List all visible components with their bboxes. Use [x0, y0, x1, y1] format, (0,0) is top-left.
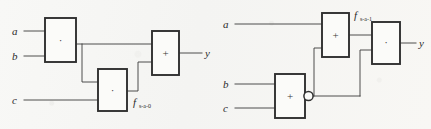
and-gate-ab-op: ·: [59, 34, 63, 46]
wire-nor-to-or: [314, 48, 322, 96]
or-gate-a: +: [322, 13, 349, 57]
fault-symbol: f: [133, 96, 138, 108]
and-gate-ab: ·: [45, 18, 76, 62]
wire-and-c-to-or: [127, 62, 152, 91]
output-label-y: y: [418, 37, 424, 49]
nor-gate-bc-op: +: [287, 90, 293, 102]
input-label-b: b: [12, 50, 18, 62]
and-gate-out-op: ·: [384, 36, 388, 48]
inversion-bubble-icon: [304, 91, 313, 100]
input-label-a: a: [223, 18, 229, 30]
or-gate-out-op: +: [162, 47, 168, 59]
fault-subscript: s-a-0: [139, 103, 151, 109]
wire-nor-to-and: [360, 50, 372, 96]
wire-and-ab-branch-down: [82, 44, 98, 82]
right-circuit-panel: + + · a b c y f s-a-1: [215, 0, 431, 129]
and-gate-out: ·: [372, 22, 400, 64]
left-circuit-panel: · · + a b c y f s-a-0: [0, 0, 215, 129]
figure-root: · · + a b c y f s-a-0: [0, 0, 431, 129]
input-label-b: b: [223, 78, 229, 90]
or-gate-out: +: [152, 31, 179, 75]
fault-label-s-a-0: f s-a-0: [133, 96, 151, 109]
fault-subscript: s-a-1: [360, 16, 372, 22]
output-label-y: y: [204, 47, 210, 59]
right-circuit-svg: + + · a b c y f s-a-1: [215, 0, 431, 129]
nor-gate-bc: +: [275, 74, 313, 118]
input-label-a: a: [12, 25, 18, 37]
fault-label-s-a-1: f s-a-1: [354, 9, 372, 22]
input-label-c: c: [223, 102, 228, 114]
and-gate-c-op: ·: [111, 84, 115, 96]
or-gate-a-op: +: [332, 29, 338, 41]
input-label-c: c: [12, 94, 17, 106]
left-circuit-svg: · · + a b c y f s-a-0: [0, 0, 215, 129]
fault-symbol: f: [354, 9, 359, 21]
and-gate-c: ·: [98, 69, 127, 111]
